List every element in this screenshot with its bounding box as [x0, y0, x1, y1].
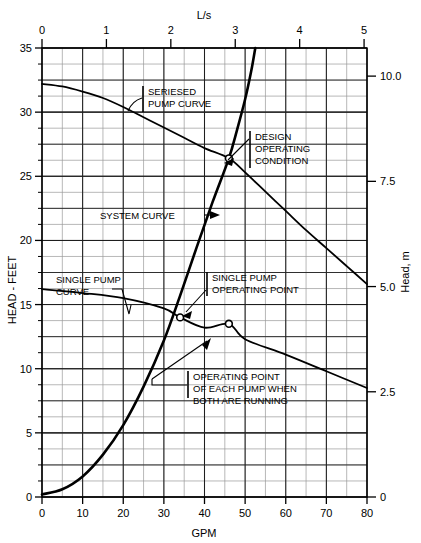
top-tick-label-1: 1 [103, 24, 109, 36]
annotation-both-line3: BOTH ARE RUNNING [193, 395, 288, 406]
y-tick-label-0: 0 [26, 491, 32, 503]
top-tick-label-4: 4 [297, 24, 303, 36]
x-tick-label-0: 0 [39, 507, 45, 519]
y-tick-label-30: 30 [20, 106, 32, 118]
annotation-both-line2: OF EACH PUMP WHEN [193, 383, 297, 394]
annotation-design-line1: DESIGN [255, 131, 292, 142]
y-tick-label-5: 5 [26, 427, 32, 439]
top-tick-label-3: 3 [232, 24, 238, 36]
x-tick-label-40: 40 [198, 507, 210, 519]
right-tick-label-0: 0 [380, 491, 386, 503]
y-tick-label-20: 20 [20, 234, 32, 246]
x-tick-label-80: 80 [361, 507, 373, 519]
annotation-single-curve-line2: CURVE [56, 286, 89, 297]
y-tick-label-10: 10 [20, 363, 32, 375]
marker-operating-point-each-pump-both-running [225, 320, 232, 327]
y-tick-label-15: 15 [20, 299, 32, 311]
marker-single-pump-operating-point [177, 314, 184, 321]
annotation-seriesed-line1: SERIESED [148, 86, 196, 97]
annotation-single-point-line1: SINGLE PUMP [212, 272, 277, 283]
right-tick-label-10-0: 10.0 [380, 70, 401, 82]
x-tick-label-70: 70 [320, 507, 332, 519]
right-axis-title: Head, m [399, 251, 411, 293]
top-tick-label-0: 0 [39, 24, 45, 36]
annotation-seriesed-line2: PUMP CURVE [148, 98, 211, 109]
annotation-single-point-line2: OPERATING POINT [212, 284, 299, 295]
annotation-both-line1: OPERATING POINT [193, 371, 280, 382]
top-tick-label-2: 2 [168, 24, 174, 36]
top-tick-label-5: 5 [361, 24, 367, 36]
right-tick-label-2-5: 2.5 [380, 386, 395, 398]
y-tick-label-25: 25 [20, 170, 32, 182]
annotation-system-line1: SYSTEM CURVE [100, 210, 175, 221]
x-tick-label-60: 60 [280, 507, 292, 519]
annotation-single-curve-line1: SINGLE PUMP [56, 274, 121, 285]
annotation-design-line3: CONDITION [255, 155, 308, 166]
pump-curve-chart: 0 1 2 3 4 5 0 10 20 30 40 50 60 70 80 0 … [0, 0, 421, 543]
y-tick-label-35: 35 [20, 42, 32, 54]
annotation-design-line2: OPERATING [255, 143, 310, 154]
chart-background [0, 0, 421, 543]
x-tick-label-50: 50 [239, 507, 251, 519]
bottom-axis-title: GPM [191, 527, 216, 539]
x-tick-label-20: 20 [117, 507, 129, 519]
right-tick-label-7-5: 7.5 [380, 175, 395, 187]
x-tick-label-10: 10 [77, 507, 89, 519]
chart-svg: 0 1 2 3 4 5 0 10 20 30 40 50 60 70 80 0 … [0, 0, 421, 543]
top-axis-title: L/s [197, 9, 212, 21]
x-tick-label-30: 30 [158, 507, 170, 519]
right-tick-label-5-0: 5.0 [380, 281, 395, 293]
left-axis-title: HEAD - FEET [6, 255, 18, 324]
